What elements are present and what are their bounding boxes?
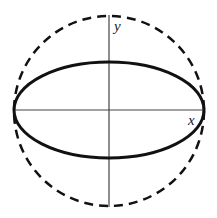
- x-axis-label: x: [187, 112, 195, 128]
- ellipse-circle-diagram: y x: [0, 0, 217, 218]
- y-axis-label: y: [112, 18, 121, 34]
